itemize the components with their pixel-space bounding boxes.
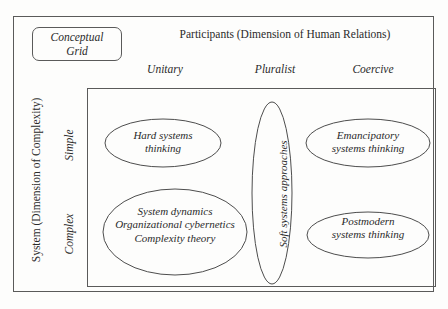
cell-line: Postmodern (312, 215, 424, 228)
cell-line: Hard systems (110, 129, 216, 142)
cell-line: Organizational cybernetics (105, 218, 245, 231)
row-label-complex: Complex (63, 202, 75, 266)
cell-text-complex-unitary: System dynamics Organizational cyberneti… (105, 205, 245, 245)
legend-line-1: Conceptual (50, 30, 103, 44)
column-header-coercive: Coercive (330, 63, 416, 75)
cell-line: Emancipatory (310, 129, 426, 142)
left-axis-title: System (Dimension of Complexity) (30, 80, 42, 280)
cell-text-complex-coercive: Postmodern systems thinking (312, 215, 424, 242)
column-header-unitary: Unitary (120, 63, 210, 75)
cell-line: thinking (110, 142, 216, 155)
cell-line: systems thinking (310, 142, 426, 155)
row-label-simple: Simple (63, 115, 75, 175)
legend-line-2: Grid (66, 44, 88, 58)
legend-conceptual-grid-box: Conceptual Grid (32, 27, 122, 61)
conceptual-grid-figure: Conceptual Grid Participants (Dimension … (0, 0, 448, 309)
cell-line: System dynamics (105, 205, 245, 218)
cell-text-simple-unitary: Hard systems thinking (110, 129, 216, 156)
cell-line: Complexity theory (105, 232, 245, 245)
cell-line: systems thinking (312, 228, 424, 241)
grid-inner-border (87, 88, 436, 287)
column-header-pluralist: Pluralist (232, 63, 318, 75)
top-axis-title: Participants (Dimension of Human Relatio… (140, 28, 430, 40)
cell-text-simple-coercive: Emancipatory systems thinking (310, 129, 426, 156)
cell-text-pluralist-span: Soft systems approaches (277, 129, 289, 259)
